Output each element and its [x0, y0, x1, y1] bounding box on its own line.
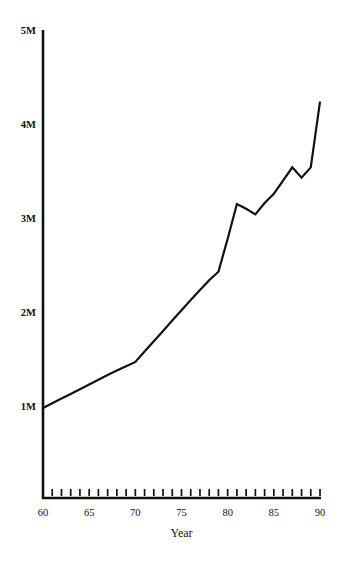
data-series-line — [43, 102, 320, 408]
x-axis-tick-label: 65 — [84, 507, 95, 518]
y-axis-tick-label: 3M — [21, 213, 36, 224]
x-axis-tick-label: 80 — [222, 507, 233, 518]
x-axis-tick-marks — [43, 489, 320, 496]
chart-figure: 1M2M3M4M5M 60657075808590 Year — [0, 0, 338, 561]
y-axis-tick-label: 1M — [21, 401, 36, 412]
y-axis-tick-label: 2M — [21, 307, 36, 318]
x-axis-tick-label: 70 — [130, 507, 141, 518]
line-chart-svg: 1M2M3M4M5M 60657075808590 Year — [0, 0, 338, 561]
x-axis-tick-label: 60 — [38, 507, 49, 518]
x-axis-group: 60657075808590 — [38, 489, 326, 518]
x-axis-title: Year — [170, 526, 192, 540]
x-axis-tick-label: 85 — [269, 507, 280, 518]
y-axis-tick-label: 4M — [21, 119, 36, 130]
y-axis-group: 1M2M3M4M5M — [21, 25, 43, 499]
y-axis-tick-label: 5M — [21, 25, 36, 36]
y-axis-tick-labels: 1M2M3M4M5M — [21, 25, 36, 412]
x-axis-tick-label: 75 — [176, 507, 187, 518]
x-axis-tick-labels: 60657075808590 — [38, 507, 326, 518]
x-axis-tick-label: 90 — [315, 507, 326, 518]
